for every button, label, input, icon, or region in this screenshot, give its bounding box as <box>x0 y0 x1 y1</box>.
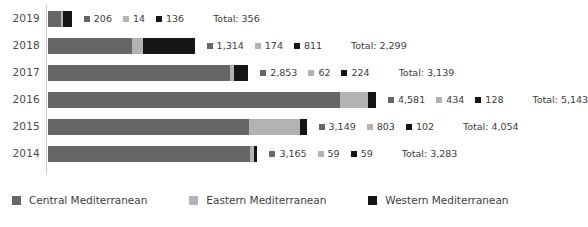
value-label: 59 <box>351 149 373 159</box>
legend-item[interactable]: Eastern Mediterranean <box>189 194 326 206</box>
value-label: 62 <box>308 68 330 78</box>
stacked-bar[interactable] <box>48 38 195 54</box>
value-number: 3,165 <box>279 149 306 159</box>
value-number: 434 <box>446 95 464 105</box>
value-number: 3,149 <box>329 122 356 132</box>
bar-row: 20143,1655959Total: 3,283 <box>0 140 570 167</box>
square-swatch-icon <box>255 43 261 49</box>
value-number: 14 <box>133 14 145 24</box>
row-total-label: Total: 2,299 <box>351 41 407 51</box>
stacked-bar[interactable] <box>48 65 248 81</box>
value-number: 1,314 <box>217 41 244 51</box>
square-swatch-icon <box>406 124 412 130</box>
value-label: 128 <box>475 95 503 105</box>
legend-swatch-icon <box>189 196 198 205</box>
legend-swatch-icon <box>12 196 21 205</box>
bar-row: 20164,581434128Total: 5,143 <box>0 86 570 113</box>
plot-area: 201920614136Total: 35620181,314174811Tot… <box>0 0 570 178</box>
bar-segment-central[interactable] <box>48 38 132 54</box>
value-label: 803 <box>367 122 395 132</box>
bar-segment-western[interactable] <box>234 65 248 81</box>
row-total-label: Total: 4,054 <box>463 122 519 132</box>
value-number: 206 <box>94 14 112 24</box>
value-label: 4,581 <box>388 95 425 105</box>
square-swatch-icon <box>318 151 324 157</box>
square-swatch-icon <box>156 16 162 22</box>
value-label: 174 <box>255 41 283 51</box>
bar-segment-western[interactable] <box>300 119 307 135</box>
bar-segment-central[interactable] <box>48 11 61 27</box>
row-total-label: Total: 356 <box>213 14 260 24</box>
value-label: 811 <box>294 41 322 51</box>
row-total-label: Total: 5,143 <box>532 95 588 105</box>
value-label: 3,149 <box>319 122 356 132</box>
square-swatch-icon <box>123 16 129 22</box>
year-axis-label: 2017 <box>0 59 40 86</box>
bar-segment-western[interactable] <box>63 11 72 27</box>
year-axis-label: 2014 <box>0 140 40 167</box>
bar-segment-eastern[interactable] <box>132 38 143 54</box>
square-swatch-icon <box>341 70 347 76</box>
bar-segment-central[interactable] <box>48 146 250 162</box>
value-labels: 3,1655959Total: 3,283 <box>269 140 457 167</box>
square-swatch-icon <box>294 43 300 49</box>
value-labels: 2,85362224Total: 3,139 <box>260 59 454 86</box>
year-axis-label: 2015 <box>0 113 40 140</box>
square-swatch-icon <box>351 151 357 157</box>
square-swatch-icon <box>260 70 266 76</box>
bar-row: 20181,314174811Total: 2,299 <box>0 32 570 59</box>
bar-segment-eastern[interactable] <box>249 119 300 135</box>
value-labels: 3,149803102Total: 4,054 <box>319 113 519 140</box>
value-number: 136 <box>166 14 184 24</box>
bar-row: 20172,85362224Total: 3,139 <box>0 59 570 86</box>
square-swatch-icon <box>436 97 442 103</box>
bar-segment-central[interactable] <box>48 65 230 81</box>
row-total-label: Total: 3,283 <box>402 149 458 159</box>
square-swatch-icon <box>475 97 481 103</box>
value-label: 102 <box>406 122 434 132</box>
value-label: 14 <box>123 14 145 24</box>
bar-segment-central[interactable] <box>48 92 340 108</box>
value-labels: 20614136Total: 356 <box>84 5 260 32</box>
chart-legend: Central MediterraneanEastern Mediterrane… <box>0 190 570 210</box>
value-number: 62 <box>318 68 330 78</box>
legend-swatch-icon <box>368 196 377 205</box>
year-axis-label: 2018 <box>0 32 40 59</box>
value-label: 206 <box>84 14 112 24</box>
legend-label: Eastern Mediterranean <box>206 194 326 206</box>
legend-item[interactable]: Central Mediterranean <box>12 194 147 206</box>
bar-row: 20153,149803102Total: 4,054 <box>0 113 570 140</box>
legend-label: Western Mediterranean <box>385 194 508 206</box>
stacked-bar[interactable] <box>48 146 257 162</box>
value-label: 59 <box>318 149 340 159</box>
stacked-bar[interactable] <box>48 11 72 27</box>
bar-segment-eastern[interactable] <box>340 92 368 108</box>
value-number: 102 <box>416 122 434 132</box>
value-number: 811 <box>304 41 322 51</box>
square-swatch-icon <box>367 124 373 130</box>
stacked-bar[interactable] <box>48 92 376 108</box>
square-swatch-icon <box>207 43 213 49</box>
legend-label: Central Mediterranean <box>29 194 147 206</box>
value-label: 434 <box>436 95 464 105</box>
value-label: 1,314 <box>207 41 244 51</box>
bar-segment-central[interactable] <box>48 119 249 135</box>
value-number: 803 <box>377 122 395 132</box>
stacked-bar[interactable] <box>48 119 307 135</box>
year-axis-label: 2016 <box>0 86 40 113</box>
bar-segment-western[interactable] <box>254 146 258 162</box>
bar-segment-western[interactable] <box>368 92 376 108</box>
value-number: 2,853 <box>270 68 297 78</box>
square-swatch-icon <box>269 151 275 157</box>
value-label: 136 <box>156 14 184 24</box>
bar-row: 201920614136Total: 356 <box>0 5 570 32</box>
value-number: 59 <box>328 149 340 159</box>
square-swatch-icon <box>84 16 90 22</box>
square-swatch-icon <box>319 124 325 130</box>
value-label: 3,165 <box>269 149 306 159</box>
legend-item[interactable]: Western Mediterranean <box>368 194 508 206</box>
year-axis-label: 2019 <box>0 5 40 32</box>
bar-segment-western[interactable] <box>143 38 195 54</box>
value-label: 224 <box>341 68 369 78</box>
